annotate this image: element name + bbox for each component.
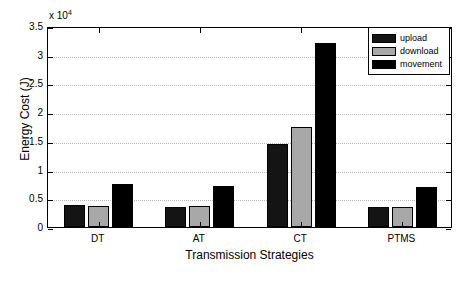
- y-axis-tick-label: 0: [37, 223, 43, 233]
- bar-dt-movement: [112, 184, 133, 227]
- x-axis-tick-mark: [301, 28, 302, 33]
- x-axis-tick-label: PTMS: [361, 233, 441, 244]
- legend-item-download: download: [372, 45, 446, 57]
- legend-label-download: download: [400, 46, 439, 56]
- bar-chart-figure: x 104 Energy Cost (J) 00.511.522.533.5 D…: [0, 0, 466, 282]
- y-axis-tick-mark: [446, 85, 451, 86]
- legend-item-upload: upload: [372, 32, 446, 44]
- x-axis-tick-mark: [99, 28, 100, 33]
- bar-dt-upload: [64, 205, 85, 227]
- y-axis-tick-mark: [48, 28, 53, 29]
- x-axis-tick-label: CT: [260, 233, 340, 244]
- y-axis-exponent-label: x 104: [49, 9, 72, 21]
- y-axis-tick-label: 1: [37, 166, 43, 176]
- y-axis-tick-mark: [48, 143, 53, 144]
- legend-swatch-movement: [372, 60, 396, 69]
- x-axis-title: Transmission Strategies: [47, 248, 452, 262]
- legend-item-movement: movement: [372, 58, 446, 70]
- bar-ptms-movement: [416, 187, 437, 227]
- bar-at-upload: [165, 207, 186, 227]
- y-axis-tick-mark: [48, 57, 53, 58]
- y-axis-tick-label: 2: [37, 108, 43, 118]
- y-axis-tick-mark: [48, 200, 53, 201]
- bar-ptms-upload: [368, 207, 389, 227]
- y-axis-exponent-power: 4: [68, 9, 72, 16]
- legend-swatch-upload: [372, 34, 396, 43]
- y-axis-tick-label: 2.5: [29, 79, 43, 89]
- x-axis-tick-mark: [402, 222, 403, 227]
- x-axis-tick-mark: [99, 222, 100, 227]
- y-axis-tick-mark: [48, 229, 53, 230]
- x-axis-tick-label: AT: [159, 233, 239, 244]
- y-axis-tick-mark: [446, 229, 451, 230]
- y-axis-tick-mark: [446, 114, 451, 115]
- legend-swatch-download: [372, 47, 396, 56]
- y-axis-tick-mark: [446, 172, 451, 173]
- legend: uploaddownloadmovement: [368, 27, 450, 75]
- bar-ct-upload: [267, 144, 288, 227]
- y-axis-tick-mark: [48, 85, 53, 86]
- y-axis-tick-mark: [446, 200, 451, 201]
- y-axis-tick-label: 0.5: [29, 194, 43, 204]
- bar-ct-download: [291, 127, 312, 228]
- x-axis-tick-mark: [200, 222, 201, 227]
- y-axis-tick-label: 3: [37, 51, 43, 61]
- y-axis-tick-mark: [48, 172, 53, 173]
- y-axis-tick-mark: [446, 143, 451, 144]
- bar-at-movement: [213, 186, 234, 227]
- y-axis-tick-mark: [48, 114, 53, 115]
- y-axis-exponent-base: x 10: [49, 10, 68, 21]
- y-axis-tick-label: 3.5: [29, 22, 43, 32]
- legend-label-movement: movement: [400, 59, 442, 69]
- x-axis-tick-mark: [200, 28, 201, 33]
- x-axis-tick-label: DT: [58, 233, 138, 244]
- legend-label-upload: upload: [400, 33, 427, 43]
- y-axis-tick-label: 1.5: [29, 137, 43, 147]
- bar-ct-movement: [315, 43, 336, 227]
- x-axis-tick-mark: [301, 222, 302, 227]
- y-axis-tick-labels: 00.511.522.533.5: [0, 0, 43, 282]
